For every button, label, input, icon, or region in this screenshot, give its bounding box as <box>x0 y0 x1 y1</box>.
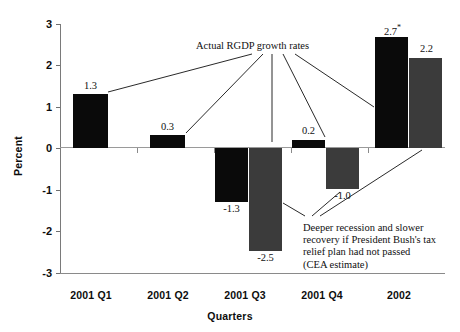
bar-label-actual-2002: 2.7* <box>373 22 412 37</box>
bar-label-cea-2001q4: -1.0 <box>323 190 362 201</box>
y-tick-label: -3 <box>32 268 52 279</box>
bar-label-actual-2001q3: -1.3 <box>212 203 251 214</box>
bottom-frame-line <box>60 273 445 274</box>
y-tick-label: -2 <box>32 226 52 237</box>
y-tick-neg2: -2 <box>24 226 52 237</box>
bar-cea-2002 <box>409 58 442 148</box>
y-tick-label: 1 <box>32 102 52 113</box>
x-category-2001q1: 2001 Q1 <box>52 289 130 301</box>
y-tick-3: 3 <box>24 19 52 30</box>
x-tickmark-1 <box>137 148 138 153</box>
bar-actual-2001q2 <box>150 135 185 148</box>
annotation-actual-rgdp: Actual RGDP growth rates <box>196 40 309 52</box>
y-axis-title: Percent <box>12 126 24 186</box>
y-tick-neg3: -3 <box>24 268 52 279</box>
y-tick-label: -1 <box>32 185 52 196</box>
y-tick-1: 1 <box>24 102 52 113</box>
bar-label-actual-2001q4: 0.2 <box>292 125 325 136</box>
annotation-cea-line1: Deeper recession and slower <box>303 222 460 234</box>
x-category-2001q3: 2001 Q3 <box>206 289 284 301</box>
bar-label-cea-2001q3: -2.5 <box>246 252 285 263</box>
y-tick-neg1: -1 <box>24 185 52 196</box>
y-axis-line <box>60 24 61 274</box>
y-tick-label: 0 <box>32 143 52 154</box>
x-tickmark-4 <box>368 148 369 153</box>
x-axis-title: Quarters <box>0 310 460 322</box>
bar-cea-2001q3 <box>249 148 282 251</box>
bar-actual-2002 <box>375 37 408 148</box>
y-tick-0: 0 <box>24 143 52 154</box>
x-tickmark-3 <box>291 148 292 153</box>
x-category-2001q2: 2001 Q2 <box>129 289 207 301</box>
y-tick-label: 2 <box>32 60 52 71</box>
annotation-cea-line4: (CEA estimate) <box>303 259 460 271</box>
y-tick-label: 3 <box>32 19 52 30</box>
bar-actual-2001q4 <box>292 140 325 148</box>
annotation-cea-line2: recovery if President Bush's tax <box>303 234 460 246</box>
bar-label-actual-2001q2: 0.3 <box>150 121 185 132</box>
bar-label-cea-2002: 2.2 <box>407 43 446 54</box>
rgdp-growth-bar-chart: 3 2 1 0 -1 -2 -3 1.3 0.3 -1.3 -2.5 0.2 <box>0 0 460 332</box>
bar-cea-2001q4 <box>326 148 359 189</box>
y-tick-2: 2 <box>24 60 52 71</box>
bar-actual-2001q3 <box>215 148 248 202</box>
bar-actual-2001q1 <box>73 94 108 148</box>
bar-label-actual-2001q1: 1.3 <box>73 80 108 91</box>
annotation-cea-estimate: Deeper recession and slower recovery if … <box>303 222 460 271</box>
annotation-cea-line3: relief plan had not passed <box>303 246 460 258</box>
x-category-2002: 2002 <box>360 289 438 301</box>
x-category-2001q4: 2001 Q4 <box>283 289 361 301</box>
